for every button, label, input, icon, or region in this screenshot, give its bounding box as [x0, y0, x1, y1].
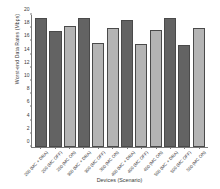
x-tick-mark — [40, 147, 41, 149]
y-axis-title: Worst-end Data Rates (Mbps) — [14, 0, 20, 104]
y-tick-label: 10 — [24, 72, 32, 78]
bar[interactable] — [78, 18, 90, 147]
y-tick-label: 12 — [24, 59, 32, 65]
x-tick-slot: 500 (MC ON) — [192, 149, 206, 177]
x-tick-mark — [156, 147, 157, 149]
x-tick-mark — [141, 147, 142, 149]
bar-slot — [192, 15, 206, 147]
bar[interactable] — [178, 45, 190, 147]
x-axis-tick-labels: 200 (MC + DRA)200 (MC OFF)200 (MC ON)300… — [31, 149, 208, 177]
plot-area: 02468101214161820 — [31, 15, 208, 148]
bar-slot — [91, 15, 105, 147]
bar[interactable] — [49, 31, 61, 147]
x-tick-mark — [69, 147, 70, 149]
bar[interactable] — [35, 18, 47, 147]
x-tick-mark — [127, 147, 128, 149]
bar-slot — [120, 15, 134, 147]
x-tick-mark — [184, 147, 185, 149]
bar[interactable] — [164, 18, 176, 147]
bar-slot — [48, 15, 62, 147]
bar[interactable] — [92, 43, 104, 147]
bar[interactable] — [107, 28, 119, 147]
chart-figure: Worst-end Data Rates (Mbps) 024681012141… — [0, 0, 220, 189]
x-tick-mark — [98, 147, 99, 149]
bar[interactable] — [135, 44, 147, 147]
y-tick-label: 14 — [24, 46, 32, 52]
x-tick-mark — [199, 147, 200, 149]
bar-slot — [149, 15, 163, 147]
bar[interactable] — [64, 26, 76, 147]
x-tick-mark — [55, 147, 56, 149]
bar-slot — [163, 15, 177, 147]
bar-slot — [34, 15, 48, 147]
bar-slot — [77, 15, 91, 147]
bar[interactable] — [121, 20, 133, 147]
y-tick-label: 18 — [24, 19, 32, 25]
bar-slot — [177, 15, 191, 147]
bar[interactable] — [150, 30, 162, 147]
bar-slot — [106, 15, 120, 147]
y-tick-label: 16 — [24, 32, 32, 38]
y-tick-label: 20 — [24, 6, 32, 12]
bar-series — [32, 15, 208, 147]
bar-slot — [63, 15, 77, 147]
bar-slot — [134, 15, 148, 147]
x-tick-mark — [112, 147, 113, 149]
x-tick-mark — [170, 147, 171, 149]
bar[interactable] — [193, 28, 205, 147]
x-axis-title: Devices (Scenario) — [31, 177, 208, 183]
x-tick-slot: 200 (MC + DRA) — [33, 149, 47, 177]
x-tick-mark — [83, 147, 84, 149]
